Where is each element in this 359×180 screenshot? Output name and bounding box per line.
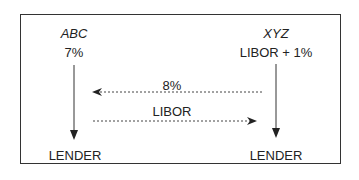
arrow-dashed-left-icon xyxy=(92,88,262,96)
arrows-layer xyxy=(0,0,359,180)
arrow-dashed-right-icon xyxy=(93,117,257,125)
arrow-down-right-icon xyxy=(272,64,280,138)
arrow-down-left-icon xyxy=(70,65,78,140)
